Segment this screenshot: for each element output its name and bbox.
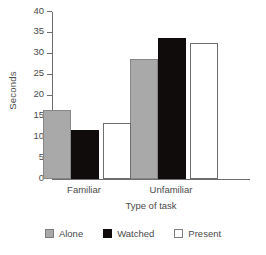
legend-item: Present (174, 228, 221, 239)
bar (71, 130, 99, 179)
x-axis-category-label: Unfamiliar (131, 184, 211, 195)
chart-legend: AloneWatchedPresent (0, 228, 266, 239)
legend-swatch-icon (45, 229, 54, 238)
y-axis-tick-label: 25 (33, 67, 44, 79)
legend-swatch-icon (174, 229, 183, 238)
y-axis-title: Seconds (7, 55, 18, 127)
bar-chart: Seconds 0510152025303540 FamiliarUnfamil… (0, 0, 266, 255)
legend-swatch-icon (103, 229, 112, 238)
y-axis-tick-label: 35 (33, 25, 44, 37)
x-axis-title: Type of task (52, 200, 250, 211)
bar (103, 123, 131, 179)
bar (130, 59, 158, 179)
y-axis-tick: 25 (47, 74, 52, 75)
plot-area: 0510152025303540 (52, 12, 250, 180)
y-axis-tick: 30 (47, 53, 52, 54)
legend-label: Alone (59, 228, 83, 239)
y-axis-tick: 35 (47, 32, 52, 33)
x-axis-line (52, 179, 250, 180)
bar (158, 38, 186, 179)
x-axis-category-label: Familiar (44, 184, 124, 195)
bar (190, 43, 218, 179)
y-axis-tick-label: 40 (33, 5, 44, 17)
legend-label: Present (188, 228, 221, 239)
legend-label: Watched (117, 228, 154, 239)
legend-item: Alone (45, 228, 83, 239)
legend-item: Watched (103, 228, 154, 239)
y-axis-tick: 20 (47, 95, 52, 96)
bars-layer (53, 12, 250, 179)
y-axis-tick: 40 (47, 11, 52, 12)
bar (43, 110, 71, 179)
y-axis-tick-label: 20 (33, 88, 44, 100)
y-axis-tick-label: 30 (33, 46, 44, 58)
